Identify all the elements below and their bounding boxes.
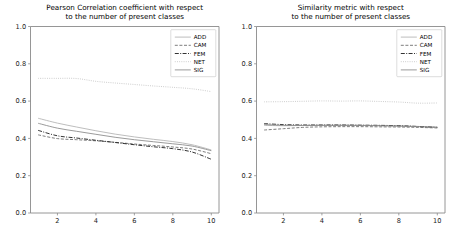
chart-panel-pearson: Pearson Correlation coefficient with res…: [0, 0, 226, 244]
x-tick-label: 4: [320, 217, 324, 225]
y-tick-label: 0.6: [242, 97, 253, 105]
legend-label-add: ADD: [194, 34, 206, 40]
x-tick-label: 10: [207, 217, 215, 225]
legend-label-cam: CAM: [420, 42, 433, 48]
y-tick-label: 0.0: [242, 209, 253, 217]
legend-label-add: ADD: [420, 34, 432, 40]
similarity-metric-chart: Similarity metric with respectto the num…: [226, 0, 452, 244]
chart-title-line-2: to the number of present classes: [65, 12, 184, 21]
y-tick-label: 0.0: [16, 209, 27, 217]
legend-label-net: NET: [420, 59, 432, 65]
legend-label-fem: FEM: [194, 51, 206, 57]
chart-title-line-2: to the number of present classes: [291, 12, 410, 21]
x-tick-label: 10: [433, 217, 441, 225]
x-tick-label: 6: [132, 217, 136, 225]
y-tick-label: 1.0: [242, 23, 253, 31]
pearson-correlation-chart: Pearson Correlation coefficient with res…: [0, 0, 226, 244]
x-tick-label: 4: [94, 217, 98, 225]
legend-label-sig: SIG: [420, 67, 430, 73]
series-line-net: [38, 78, 211, 91]
chart-panel-similarity: Similarity metric with respectto the num…: [226, 0, 452, 244]
series-line-net: [264, 101, 437, 103]
legend-label-fem: FEM: [420, 51, 432, 57]
x-tick-label: 6: [358, 217, 362, 225]
legend-label-cam: CAM: [194, 42, 207, 48]
x-tick-label: 2: [281, 217, 285, 225]
y-tick-label: 0.4: [16, 135, 27, 143]
y-tick-label: 0.6: [16, 97, 27, 105]
legend-label-net: NET: [194, 59, 206, 65]
series-line-cam: [264, 127, 437, 130]
x-tick-label: 2: [55, 217, 59, 225]
chart-title-line-1: Pearson Correlation coefficient with res…: [46, 3, 203, 12]
x-tick-label: 8: [397, 217, 401, 225]
y-tick-label: 0.8: [16, 60, 27, 68]
y-tick-label: 0.4: [242, 135, 253, 143]
y-tick-label: 0.2: [242, 172, 253, 180]
figure-canvas: Pearson Correlation coefficient with res…: [0, 0, 452, 244]
y-tick-label: 0.2: [16, 172, 27, 180]
legend-label-sig: SIG: [194, 67, 204, 73]
chart-title-line-1: Similarity metric with respect: [298, 3, 404, 12]
y-tick-label: 1.0: [16, 23, 27, 31]
x-tick-label: 8: [171, 217, 175, 225]
y-tick-label: 0.8: [242, 60, 253, 68]
